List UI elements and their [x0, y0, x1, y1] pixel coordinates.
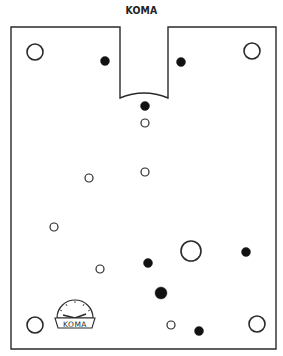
- large-hole-icon: [27, 317, 43, 333]
- large-hole-icon: [181, 241, 201, 261]
- filled-hole-icon: [144, 259, 153, 268]
- small-hole-icon: [50, 223, 58, 231]
- large-hole-icon: [27, 44, 43, 60]
- board-outline: [11, 27, 276, 349]
- board-diagram: KOMA: [0, 0, 283, 356]
- small-hole-icon: [167, 321, 175, 329]
- filled-hole-icon: [195, 327, 204, 336]
- filled-hole-icon: [177, 58, 186, 67]
- koma-clock-logo-icon: KOMA: [55, 300, 95, 328]
- small-hole-icon: [96, 265, 104, 273]
- small-open-holes: [50, 119, 175, 329]
- logo-text: KOMA: [63, 320, 87, 329]
- filled-hole-icon: [141, 102, 150, 111]
- filled-hole-icon: [242, 248, 251, 257]
- small-hole-icon: [85, 174, 93, 182]
- large-open-holes: [27, 43, 265, 333]
- filled-hole-icon: [101, 57, 110, 66]
- small-hole-icon: [141, 168, 149, 176]
- large-hole-icon: [249, 316, 265, 332]
- filled-holes: [101, 57, 251, 336]
- small-hole-icon: [141, 119, 149, 127]
- filled-hole-icon: [155, 287, 167, 299]
- large-hole-icon: [244, 43, 260, 59]
